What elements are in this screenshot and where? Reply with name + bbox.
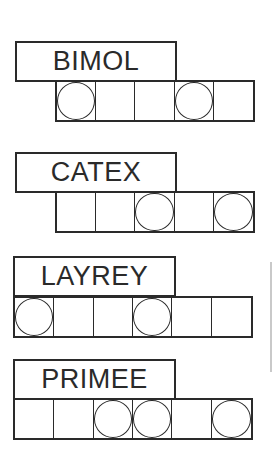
answer-cell-circled[interactable] xyxy=(133,296,172,336)
answer-cell[interactable] xyxy=(94,296,133,336)
answer-cell[interactable] xyxy=(175,191,214,231)
scrambled-word-label: LAYREY xyxy=(13,256,176,297)
answer-cell[interactable] xyxy=(172,296,211,336)
answer-cell[interactable] xyxy=(96,191,135,231)
answer-cell[interactable] xyxy=(54,398,93,438)
answer-cell-circled[interactable] xyxy=(94,398,133,438)
answer-cell[interactable] xyxy=(212,296,251,336)
answer-cell-circled[interactable] xyxy=(212,398,251,438)
scrambled-word-label: PRIMEE xyxy=(13,359,176,400)
answer-cell-circled[interactable] xyxy=(214,191,253,231)
answer-cell[interactable] xyxy=(15,398,54,438)
answer-cells xyxy=(55,191,255,233)
answer-cells xyxy=(55,80,255,122)
answer-cell[interactable] xyxy=(172,398,211,438)
answer-cell[interactable] xyxy=(54,296,93,336)
answer-cell-circled[interactable] xyxy=(133,398,172,438)
answer-cell-circled[interactable] xyxy=(57,80,96,120)
scrambled-word-label: CATEX xyxy=(15,152,177,193)
answer-cell[interactable] xyxy=(57,191,96,231)
answer-cell[interactable] xyxy=(214,80,253,120)
answer-cell[interactable] xyxy=(96,80,135,120)
answer-cell[interactable] xyxy=(135,80,174,120)
answer-cell-circled[interactable] xyxy=(135,191,174,231)
answer-cells xyxy=(13,296,253,338)
page-edge-divider xyxy=(270,262,272,372)
answer-cells xyxy=(13,398,253,440)
answer-cell-circled[interactable] xyxy=(15,296,54,336)
scrambled-word-label: BIMOL xyxy=(15,41,177,82)
answer-cell-circled[interactable] xyxy=(175,80,214,120)
